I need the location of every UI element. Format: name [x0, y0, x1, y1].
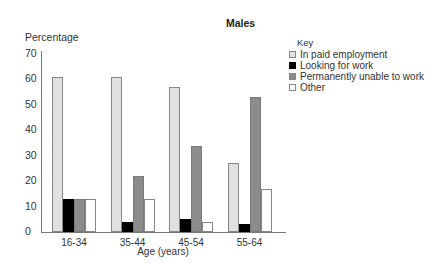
legend-item: Other: [289, 82, 325, 93]
x-axis-label: Age (years): [113, 246, 213, 257]
y-tick-label: 10: [25, 200, 45, 212]
bar-permanently-unable-to-work-35-44: [133, 176, 144, 232]
legend-title: Key: [297, 37, 313, 48]
bar-other-45-54: [202, 222, 213, 232]
y-tick-label: 50: [25, 98, 45, 110]
y-axis-label: Percentage: [25, 31, 79, 43]
legend-label: In paid employment: [300, 49, 387, 60]
legend-label: Permanently unable to work: [300, 71, 424, 82]
legend-label: Looking for work: [300, 60, 373, 71]
y-tick-label: 70: [25, 47, 45, 59]
bar-in-paid-employment-45-54: [169, 87, 180, 232]
bar-permanently-unable-to-work-16-34: [74, 199, 85, 232]
bar-in-paid-employment-35-44: [111, 77, 122, 232]
legend-item: Looking for work: [289, 60, 373, 71]
y-axis-line: [41, 51, 42, 233]
bar-looking-for-work-16-34: [63, 199, 74, 232]
bar-other-35-44: [144, 199, 155, 232]
bar-looking-for-work-55-64: [239, 224, 250, 232]
legend-swatch-icon: [289, 51, 296, 58]
legend-swatch-icon: [289, 84, 296, 91]
legend-label: Other: [300, 82, 325, 93]
bar-permanently-unable-to-work-45-54: [191, 146, 202, 232]
legend-swatch-icon: [289, 73, 296, 80]
bar-looking-for-work-45-54: [180, 219, 191, 232]
y-tick-label: 60: [25, 72, 45, 84]
legend-item: In paid employment: [289, 49, 387, 60]
legend-item: Permanently unable to work: [289, 71, 424, 82]
chart-title: Males: [226, 17, 255, 29]
bar-permanently-unable-to-work-55-64: [250, 97, 261, 232]
bar-other-55-64: [261, 189, 272, 232]
bar-other-16-34: [85, 199, 96, 232]
bar-in-paid-employment-55-64: [228, 163, 239, 232]
legend-swatch-icon: [289, 62, 296, 69]
y-tick-label: 20: [25, 174, 45, 186]
x-tick-label: 55-64: [225, 237, 275, 248]
y-tick-label: 0: [25, 225, 45, 237]
y-tick-label: 40: [25, 123, 45, 135]
bar-in-paid-employment-16-34: [52, 77, 63, 232]
x-tick-label: 16-34: [49, 237, 99, 248]
x-axis-line: [41, 232, 286, 233]
y-tick-label: 30: [25, 149, 45, 161]
bar-looking-for-work-35-44: [122, 222, 133, 232]
